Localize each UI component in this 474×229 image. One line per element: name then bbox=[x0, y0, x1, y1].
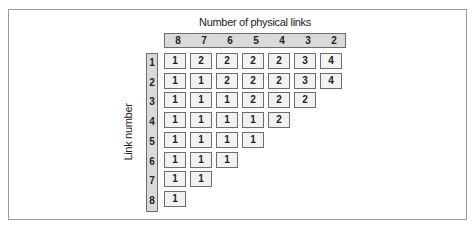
matrix-cell: 2 bbox=[294, 92, 316, 108]
column-header-bar: 8765432 bbox=[164, 33, 346, 48]
matrix-cell: 2 bbox=[268, 73, 290, 89]
matrix-cell: 1 bbox=[190, 73, 212, 89]
matrix-cell: 4 bbox=[320, 73, 342, 89]
matrix-cell: 2 bbox=[242, 73, 264, 89]
matrix-cell: 2 bbox=[216, 53, 238, 69]
matrix-cell: 1 bbox=[164, 73, 186, 89]
matrix-cell: 3 bbox=[294, 53, 316, 69]
column-header-label: 6 bbox=[217, 34, 243, 47]
row-header-bar: 12345678 bbox=[146, 53, 158, 212]
matrix-cell: 3 bbox=[294, 73, 316, 89]
column-header-label: 5 bbox=[243, 34, 269, 47]
matrix-cell: 1 bbox=[216, 112, 238, 128]
matrix-cell: 1 bbox=[164, 152, 186, 168]
matrix-cell: 2 bbox=[190, 53, 212, 69]
matrix-cell: 1 bbox=[164, 112, 186, 128]
matrix-cell: 1 bbox=[190, 112, 212, 128]
column-header-label: 4 bbox=[269, 34, 295, 47]
matrix-cell: 1 bbox=[164, 132, 186, 148]
matrix-cell: 2 bbox=[216, 73, 238, 89]
matrix-cell: 1 bbox=[190, 152, 212, 168]
matrix-cell: 1 bbox=[164, 53, 186, 69]
row-header-label: 1 bbox=[147, 55, 157, 71]
column-axis-title: Number of physical links bbox=[164, 16, 346, 28]
matrix-cell: 1 bbox=[190, 171, 212, 187]
matrix-cell: 2 bbox=[242, 92, 264, 108]
column-header-label: 7 bbox=[191, 34, 217, 47]
row-header-label: 3 bbox=[147, 94, 157, 110]
matrix-cell: 1 bbox=[216, 92, 238, 108]
matrix-cell: 4 bbox=[320, 53, 342, 69]
row-header-label: 4 bbox=[147, 114, 157, 130]
column-header-label: 3 bbox=[295, 34, 321, 47]
matrix-cell: 1 bbox=[164, 171, 186, 187]
matrix-cell: 2 bbox=[268, 92, 290, 108]
row-header-label: 5 bbox=[147, 134, 157, 150]
matrix-cell: 1 bbox=[190, 132, 212, 148]
row-axis-title: Link number bbox=[122, 103, 134, 160]
matrix-cell: 1 bbox=[216, 132, 238, 148]
matrix-cell: 1 bbox=[216, 152, 238, 168]
matrix-cell: 1 bbox=[242, 112, 264, 128]
row-header-label: 8 bbox=[147, 193, 157, 209]
column-header-label: 2 bbox=[321, 34, 347, 47]
matrix-cell: 1 bbox=[164, 92, 186, 108]
matrix-cell: 2 bbox=[268, 53, 290, 69]
matrix-cell: 1 bbox=[242, 132, 264, 148]
row-header-label: 6 bbox=[147, 154, 157, 170]
column-header-label: 8 bbox=[165, 34, 191, 47]
row-header-label: 7 bbox=[147, 173, 157, 189]
matrix-cell: 1 bbox=[164, 191, 186, 207]
matrix-cell: 2 bbox=[242, 53, 264, 69]
matrix-cell: 2 bbox=[268, 112, 290, 128]
matrix-cell: 1 bbox=[190, 92, 212, 108]
row-header-label: 2 bbox=[147, 75, 157, 91]
